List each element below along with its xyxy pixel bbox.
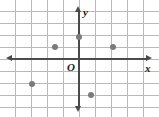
x-axis-right-arrow-icon (146, 55, 152, 61)
data-point (29, 81, 35, 87)
y-axis (78, 12, 80, 106)
data-point (88, 92, 94, 98)
data-point (52, 44, 58, 50)
y-axis-up-arrow-icon (75, 6, 81, 12)
data-point (76, 34, 82, 40)
y-axis-label: y (83, 7, 88, 18)
origin-label: O (67, 62, 75, 73)
data-point (110, 44, 116, 50)
y-axis-down-arrow-icon (75, 106, 81, 112)
coordinate-plane-figure: O y x (0, 0, 159, 117)
x-axis-label: x (145, 63, 151, 74)
x-axis-left-arrow-icon (6, 55, 12, 61)
